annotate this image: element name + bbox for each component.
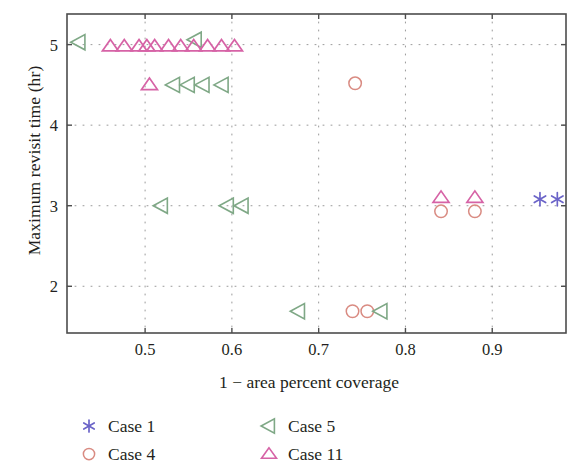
legend-label: Case 4 [106,444,155,465]
svg-text:0.9: 0.9 [482,340,503,359]
legend-row: Case 1 Case 5 [72,412,472,440]
triangle-left-icon [252,415,286,437]
star-icon [72,415,106,437]
triangle-up-icon [252,443,286,465]
y-axis-label: Maximum revisit time (hr) [24,31,45,291]
svg-text:0.8: 0.8 [395,340,416,359]
svg-text:2: 2 [50,277,58,296]
svg-text:4: 4 [50,116,58,135]
legend: Case 1 Case 5 Case 4 Case 11 [72,412,472,468]
legend-entry-case-11: Case 11 [252,443,432,465]
scatter-plot-figure: 0.50.60.70.80.92345 Maximum revisit time… [0,0,568,468]
legend-label: Case 5 [286,416,335,437]
svg-text:0.5: 0.5 [135,340,156,359]
legend-entry-case-5: Case 5 [252,415,432,437]
legend-label: Case 11 [286,444,343,465]
legend-entry-case-4: Case 4 [72,443,252,465]
legend-row: Case 4 Case 11 [72,440,472,468]
svg-text:0.7: 0.7 [308,340,329,359]
legend-entry-case-1: Case 1 [72,415,252,437]
svg-text:5: 5 [50,36,58,55]
svg-text:0.6: 0.6 [222,340,243,359]
svg-text:3: 3 [50,197,58,216]
plot-canvas: 0.50.60.70.80.92345 [0,0,568,468]
circle-icon [72,443,106,465]
x-axis-label: 1 − area percent coverage [0,372,568,393]
legend-label: Case 1 [106,416,155,437]
